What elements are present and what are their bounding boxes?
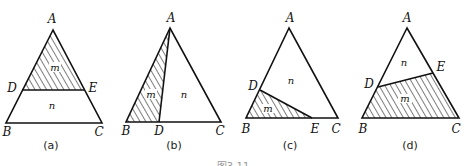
point-label-e: E	[310, 122, 320, 136]
region-label-m: m	[263, 103, 272, 114]
point-label-b: B	[358, 122, 368, 136]
point-label-e: E	[436, 60, 446, 74]
region-label-n: n	[401, 57, 407, 68]
shaded-region-m	[22, 30, 84, 90]
point-label-c: C	[331, 122, 340, 136]
panel-d: m n A D E B C (d)	[358, 11, 461, 152]
panel-label-d: (d)	[402, 139, 418, 152]
point-label-d: D	[363, 77, 374, 91]
region-label-n: n	[49, 100, 55, 111]
point-label-a: A	[47, 12, 57, 26]
panel-b: m n A B D C (b)	[121, 11, 225, 152]
point-label-d: D	[247, 79, 258, 93]
point-label-c: C	[215, 124, 224, 138]
point-label-e: E	[88, 81, 98, 95]
region-label-m: m	[146, 89, 155, 100]
point-label-a: A	[285, 11, 295, 25]
region-label-n: n	[288, 75, 294, 86]
point-label-a: A	[166, 11, 176, 25]
region-label-m: m	[50, 62, 59, 73]
panel-label-c: (c)	[283, 139, 298, 152]
figure-caption: 图3-11	[217, 161, 250, 166]
point-label-d: D	[6, 81, 17, 95]
point-label-b: B	[121, 124, 131, 138]
point-label-b: B	[2, 125, 12, 139]
region-label-m: m	[400, 93, 409, 104]
shaded-region-m	[246, 90, 312, 118]
point-label-d: D	[153, 124, 164, 138]
panel-c: m n A D B E C (c)	[241, 11, 341, 152]
point-label-a: A	[402, 11, 412, 25]
point-label-b: B	[241, 122, 251, 136]
panel-a: m n A D E B C (a)	[2, 12, 104, 152]
panel-label-b: (b)	[166, 139, 182, 152]
panel-label-a: (a)	[43, 139, 58, 152]
region-label-n: n	[181, 89, 187, 100]
point-label-c: C	[451, 122, 460, 136]
triangle-division-figure: m n A D E B C (a) m n A B D C (b) m n A …	[0, 0, 466, 166]
point-label-c: C	[94, 125, 103, 139]
